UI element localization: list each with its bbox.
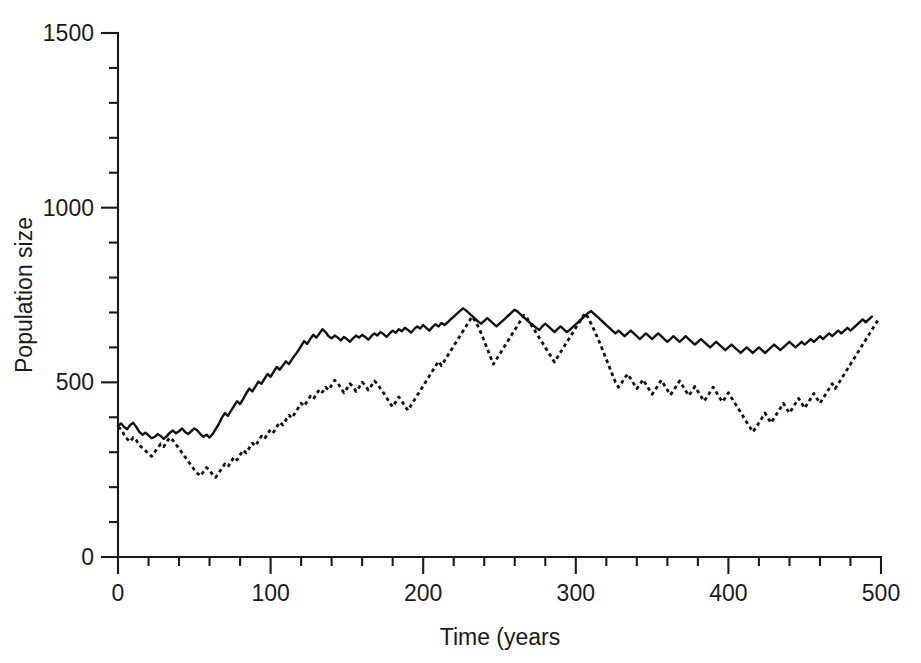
x-axis-tick-label: 200 (404, 580, 442, 606)
y-axis-tick-label: 0 (81, 544, 94, 570)
y-axis-tick-label: 1000 (43, 195, 94, 221)
chart-figure: 050010001500 0100200300400500 Population… (0, 0, 921, 663)
x-axis-tick-label: 500 (862, 580, 900, 606)
x-axis-tick-label: 100 (251, 580, 289, 606)
x-axis-tick-label: 300 (557, 580, 595, 606)
x-axis-title: Time (years (440, 624, 561, 650)
chart-background (0, 0, 921, 663)
population-size-line-chart: 050010001500 0100200300400500 Population… (0, 0, 921, 663)
y-axis-tick-label: 500 (56, 369, 94, 395)
x-axis-tick-label: 400 (709, 580, 747, 606)
x-axis-tick-label: 0 (112, 580, 125, 606)
y-axis-tick-label: 1500 (43, 20, 94, 46)
y-axis-title: Population size (11, 217, 37, 373)
